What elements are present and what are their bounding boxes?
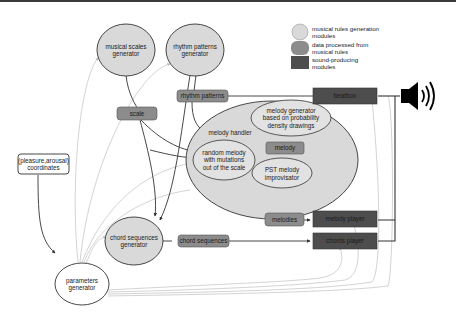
rhythm-patterns-label: rhythm patterns <box>177 90 228 102</box>
speaker-icon <box>401 82 434 110</box>
legend-swatch-sound <box>291 56 309 69</box>
legend-swatch-modules <box>292 24 308 40</box>
random-melody-label: random melodywith mutationsout of the sc… <box>195 147 253 173</box>
musical-scales-generator-label: musical scalesgenerator <box>100 40 152 60</box>
audio-bus <box>378 96 400 241</box>
chords-player-label: chords player <box>313 233 377 249</box>
scale-label: scale <box>117 107 157 120</box>
melody-handler-label: melody handler <box>205 128 255 138</box>
legend-item-sound: sound-producingmodules <box>312 56 358 70</box>
legend-item-modules: musical rules generationmodules <box>312 25 379 39</box>
legend-swatch-data <box>291 41 309 55</box>
melody-label: melody <box>266 142 304 154</box>
pst-improvisator-label: PST melodyimprovisator <box>254 165 310 182</box>
legend-item-data: data processed frommusical rules <box>312 41 368 55</box>
chord-sequences-generator-label: chord sequencesgenerator <box>106 231 162 251</box>
melodies-label: melodies <box>265 213 304 226</box>
melody-generator-label: melody generatorbased on probabilitydens… <box>253 105 329 131</box>
chord-sequences-label: chord sequences <box>178 235 229 247</box>
pleasure-arousal-label: (pleasure,arousal)coordinates <box>18 154 69 174</box>
parameters-generator-label: parametersgenerator <box>57 274 107 294</box>
rhythm-patterns-generator-label: rhythm patternsgenerator <box>169 40 221 60</box>
melody-player-label: melody player <box>313 211 377 227</box>
beatbox-label: beatbox <box>313 88 377 104</box>
